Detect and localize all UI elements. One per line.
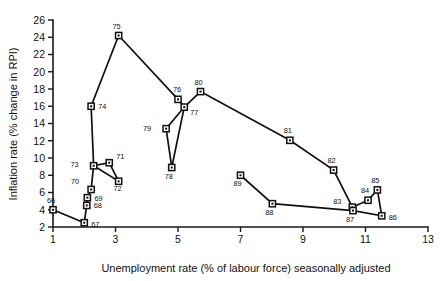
data-point-label: 86 <box>389 213 397 222</box>
data-point-center <box>240 174 242 176</box>
data-point-center <box>271 203 273 205</box>
y-axis-tick-label: 24 <box>33 31 45 43</box>
data-point-center <box>118 35 120 37</box>
y-axis-tick-label: 8 <box>39 169 45 181</box>
y-axis-tick-label: 26 <box>33 14 45 26</box>
data-point-label: 70 <box>71 177 79 186</box>
data-point-center <box>83 222 85 224</box>
data-point-label: 68 <box>94 201 102 210</box>
data-point-center <box>165 128 167 130</box>
y-axis-tick-label: 6 <box>39 186 45 198</box>
data-point-label: 66 <box>47 196 55 205</box>
data-point-center <box>367 199 369 201</box>
y-axis-tick-label: 10 <box>33 152 45 164</box>
data-point-label: 81 <box>284 126 292 135</box>
x-axis-tick-label: 13 <box>422 233 434 245</box>
data-point-label: 83 <box>333 197 341 206</box>
data-point-labels-group: 6667686970717273747576777879808182838485… <box>47 22 397 229</box>
x-axis-tick-label: 11 <box>360 233 371 245</box>
data-point-label: 74 <box>98 102 106 111</box>
y-axis-title: Inflation rate (% change in RPI) <box>7 48 19 201</box>
y-axis-tick-label: 2 <box>39 221 45 233</box>
data-point-label: 87 <box>346 215 354 224</box>
y-axis-tick-label: 16 <box>33 100 45 112</box>
data-point-center <box>381 215 383 217</box>
data-point-label: 78 <box>165 172 173 181</box>
phillips-curve-scatter-chart: 2468101214161820222426 135791113 6667686… <box>0 0 444 281</box>
data-point-label: 77 <box>190 108 198 117</box>
x-axis-tick-label: 3 <box>113 233 119 245</box>
data-point-center <box>93 165 95 167</box>
data-point-center <box>200 91 202 93</box>
data-point-label: 72 <box>114 184 122 193</box>
data-point-center <box>86 197 88 199</box>
data-point-center <box>171 166 173 168</box>
y-axis-tick-label: 14 <box>33 117 45 129</box>
x-axis-tick-label: 7 <box>238 233 244 245</box>
data-point-label: 79 <box>143 124 151 133</box>
y-axis-tick-label: 18 <box>33 83 45 95</box>
x-axis-tick-label: 9 <box>300 233 306 245</box>
y-axis-tick-label: 22 <box>33 48 45 60</box>
data-point-center <box>376 189 378 191</box>
y-axis-tick-label: 12 <box>33 135 45 147</box>
y-axis-tick-label: 4 <box>39 204 45 216</box>
x-axis-title: Unemployment rate (% of labour force) se… <box>101 262 390 274</box>
data-point-center <box>90 105 92 107</box>
data-point-center <box>177 98 179 100</box>
data-point-label: 76 <box>173 85 181 94</box>
y-axis-tick-labels: 2468101214161820222426 <box>33 14 45 233</box>
data-point-label: 75 <box>113 22 121 31</box>
data-point-center <box>289 139 291 141</box>
data-point-center <box>183 106 185 108</box>
data-point-label: 69 <box>94 194 102 203</box>
chart-canvas: 2468101214161820222426 135791113 6667686… <box>0 0 444 281</box>
x-axis-tick-labels: 135791113 <box>50 233 434 245</box>
data-point-center <box>90 188 92 190</box>
data-point-label: 82 <box>328 156 336 165</box>
y-axis-tick-label: 20 <box>33 66 45 78</box>
data-point-label: 80 <box>194 78 202 87</box>
data-point-label: 89 <box>233 179 241 188</box>
data-point-center <box>86 204 88 206</box>
data-point-label: 73 <box>70 160 78 169</box>
data-point-center <box>108 162 110 164</box>
data-point-center <box>333 169 335 171</box>
data-point-center <box>352 210 354 212</box>
data-point-label: 84 <box>361 186 369 195</box>
data-point-center <box>52 209 54 211</box>
data-point-label: 67 <box>91 220 99 229</box>
data-point-label: 88 <box>265 208 273 217</box>
data-point-center <box>118 180 120 182</box>
data-point-label: 85 <box>371 176 379 185</box>
x-axis-tick-label: 1 <box>50 233 56 245</box>
x-axis-tick-label: 5 <box>175 233 181 245</box>
data-point-label: 71 <box>116 152 124 161</box>
